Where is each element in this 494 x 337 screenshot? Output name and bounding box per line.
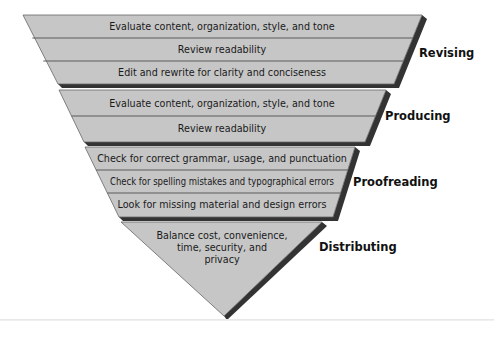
producing-row-1: Evaluate content, organization, style, a… bbox=[109, 98, 334, 109]
stage-label-distributing: Distributing bbox=[319, 240, 397, 254]
stage-distributing: Balance cost, convenience, time, securit… bbox=[121, 222, 397, 320]
producing-row-2: Review readability bbox=[178, 123, 267, 134]
proofreading-row-1: Check for correct grammar, usage, and pu… bbox=[97, 153, 347, 164]
distributing-row-1: Balance cost, convenience, bbox=[156, 230, 287, 241]
proofreading-row-2: Check for spelling mistakes and typograp… bbox=[110, 176, 334, 187]
stage-label-revising: Revising bbox=[419, 46, 474, 60]
funnel-diagram: Evaluate content, organization, style, a… bbox=[0, 0, 494, 337]
stage-proofreading: Check for correct grammar, usage, and pu… bbox=[85, 147, 438, 221]
revising-row-2: Review readability bbox=[178, 44, 267, 55]
distributing-row-3: privacy bbox=[204, 254, 240, 265]
revising-row-3: Edit and rewrite for clarity and concise… bbox=[118, 67, 326, 78]
stage-producing: Evaluate content, organization, style, a… bbox=[59, 90, 451, 146]
distributing-row-2: time, security, and bbox=[177, 242, 267, 253]
revising-row-1: Evaluate content, organization, style, a… bbox=[109, 21, 334, 32]
stage-label-producing: Producing bbox=[385, 109, 451, 123]
stage-revising: Evaluate content, organization, style, a… bbox=[23, 15, 474, 88]
bottom-divider bbox=[0, 319, 494, 321]
stage-label-proofreading: Proofreading bbox=[353, 175, 438, 189]
proofreading-row-3: Look for missing material and design err… bbox=[118, 199, 327, 210]
